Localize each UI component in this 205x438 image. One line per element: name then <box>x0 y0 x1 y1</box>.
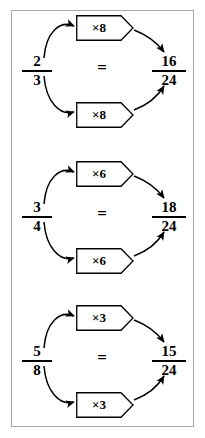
result-numerator-1: 16 <box>152 54 186 70</box>
result-fraction-3: 15 24 <box>152 344 186 378</box>
multiplier-banner-top-3: ×3 <box>76 305 134 331</box>
arrow-top-left-3 <box>44 314 74 348</box>
multiplier-banner-top-1: ×8 <box>76 15 134 41</box>
result-numerator-3: 15 <box>152 344 186 360</box>
equivalent-fraction-group-2: 3 4 = 18 24 ×6 ×6 <box>0 148 205 288</box>
source-fraction-1: 2 3 <box>22 54 52 88</box>
arrow-top-left-2 <box>44 170 74 204</box>
source-numerator-3: 5 <box>22 344 52 360</box>
multiplier-banner-bottom-3: ×3 <box>76 392 134 418</box>
multiplier-label-bottom-3: ×3 <box>76 392 122 418</box>
multiplier-label-top-1: ×8 <box>76 15 122 41</box>
result-denominator-1: 24 <box>152 72 186 88</box>
arrow-top-right-2 <box>134 176 164 198</box>
equals-sign-3: = <box>88 348 116 368</box>
equivalent-fraction-group-3: 5 8 = 15 24 ×3 ×3 <box>0 292 205 432</box>
result-denominator-3: 24 <box>152 362 186 378</box>
multiplier-banner-bottom-2: ×6 <box>76 248 134 274</box>
source-fraction-2: 3 4 <box>22 200 52 234</box>
result-fraction-1: 16 24 <box>152 54 186 88</box>
figure-root: 2 3 = 16 24 ×8 ×8 <box>0 0 205 438</box>
arrow-top-right-3 <box>134 320 164 342</box>
arrow-top-right-1 <box>134 30 164 52</box>
arrow-top-left-1 <box>44 24 74 58</box>
multiplier-label-top-3: ×3 <box>76 305 122 331</box>
multiplier-banner-top-2: ×6 <box>76 161 134 187</box>
multiplier-banner-bottom-1: ×8 <box>76 102 134 128</box>
arrow-bottom-right-3 <box>134 376 164 400</box>
source-numerator-1: 2 <box>22 54 52 70</box>
equals-sign-1: = <box>88 58 116 78</box>
result-denominator-2: 24 <box>152 218 186 234</box>
equivalent-fraction-group-1: 2 3 = 16 24 ×8 ×8 <box>0 2 205 142</box>
source-denominator-3: 8 <box>22 362 52 378</box>
source-numerator-2: 3 <box>22 200 52 216</box>
result-fraction-2: 18 24 <box>152 200 186 234</box>
result-numerator-2: 18 <box>152 200 186 216</box>
multiplier-label-bottom-2: ×6 <box>76 248 122 274</box>
source-fraction-3: 5 8 <box>22 344 52 378</box>
multiplier-label-bottom-1: ×8 <box>76 102 122 128</box>
source-denominator-1: 3 <box>22 72 52 88</box>
arrow-bottom-right-1 <box>134 86 164 110</box>
source-denominator-2: 4 <box>22 218 52 234</box>
multiplier-label-top-2: ×6 <box>76 161 122 187</box>
arrow-bottom-right-2 <box>134 232 164 256</box>
equals-sign-2: = <box>88 204 116 224</box>
